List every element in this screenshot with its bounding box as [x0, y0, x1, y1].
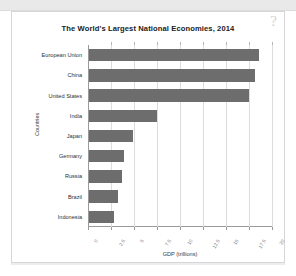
chart-panel: ? The World's Largest National Economies…	[11, 11, 285, 263]
x-tick-label: 0	[92, 238, 99, 243]
panel-shadow	[11, 263, 285, 265]
bar-series	[89, 45, 272, 227]
x-tick-mark	[272, 227, 273, 230]
bar-slot	[89, 150, 272, 163]
y-axis-tick-label: China	[67, 72, 82, 78]
y-axis-tick-label: India	[70, 113, 82, 119]
y-axis-category-labels: European UnionChinaUnited StatesIndiaJap…	[12, 45, 86, 227]
x-tick-mark	[203, 227, 204, 230]
y-axis-tick-label: Russia	[65, 173, 82, 179]
y-axis-tick-label: Brazil	[68, 194, 82, 200]
bar	[89, 130, 133, 143]
bar	[89, 150, 124, 163]
x-tick-label: 17.5	[257, 238, 267, 249]
bar-slot	[89, 211, 272, 224]
x-tick-label: 7.5	[163, 238, 172, 247]
x-tick-label: 15	[232, 238, 240, 246]
plot-area: 02.557.51012.51517.520	[88, 45, 272, 227]
x-tick-label: 2.5	[117, 238, 126, 247]
bar	[89, 110, 157, 123]
x-tick-top	[272, 42, 273, 45]
x-tick-mark	[180, 227, 181, 230]
x-tick-label: 10	[186, 238, 194, 246]
y-axis-tick-label: Japan	[67, 133, 82, 139]
bar-slot	[89, 110, 272, 123]
x-tick-label: 5	[138, 238, 145, 243]
bar	[89, 69, 255, 82]
y-axis-tick-label: Germany	[59, 153, 82, 159]
bar	[89, 211, 114, 224]
bar	[89, 89, 249, 102]
x-tick-mark	[111, 227, 112, 230]
y-axis-tick-label: United States	[48, 93, 82, 99]
bar-slot	[89, 190, 272, 203]
bar	[89, 190, 118, 203]
x-axis-title: GDP (trillions)	[88, 251, 272, 257]
bar-slot	[89, 170, 272, 183]
chart-title: The World's Largest National Economies, …	[12, 24, 284, 33]
y-axis-title: Countries	[34, 113, 40, 136]
x-tick-mark	[88, 227, 89, 230]
x-tick-mark	[134, 227, 135, 230]
bar	[89, 49, 259, 62]
x-tick-mark	[249, 227, 250, 230]
gridline	[272, 45, 273, 227]
y-axis-tick-label: European Union	[42, 52, 82, 58]
bar-slot	[89, 89, 272, 102]
bar-slot	[89, 49, 272, 62]
bar	[89, 170, 122, 183]
x-tick-mark	[157, 227, 158, 230]
bar-slot	[89, 69, 272, 82]
screenshot-root: ? The World's Largest National Economies…	[0, 0, 296, 276]
x-tick-label: 20	[278, 238, 286, 246]
x-tick-label: 12.5	[211, 238, 221, 249]
y-axis-tick-label: Indonesia	[58, 214, 82, 220]
bar-slot	[89, 130, 272, 143]
x-tick-mark	[226, 227, 227, 230]
